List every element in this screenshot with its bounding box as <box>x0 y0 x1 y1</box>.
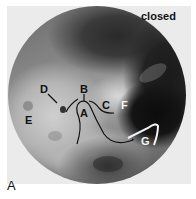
panel-label: A <box>7 178 16 193</box>
label-e: E <box>25 115 32 126</box>
label-c: C <box>102 100 110 111</box>
annotation-lines <box>0 0 196 199</box>
pointer-line-d <box>48 94 57 103</box>
label-b: B <box>80 84 88 95</box>
state-label: closed <box>141 10 176 22</box>
label-d: D <box>40 84 48 95</box>
label-g: G <box>141 136 150 147</box>
label-f: F <box>121 100 128 111</box>
label-a: A <box>80 108 88 119</box>
